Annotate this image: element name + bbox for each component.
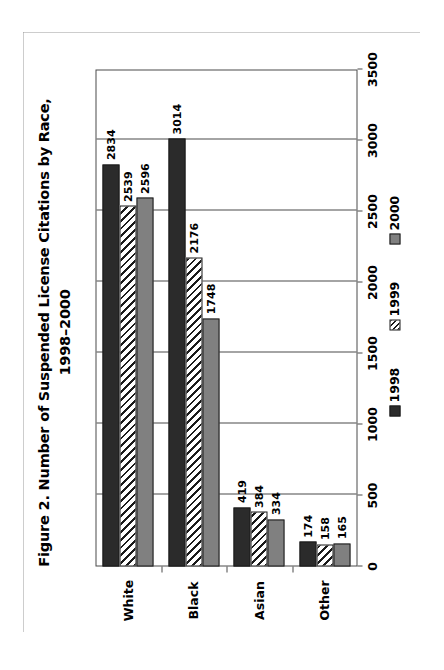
bar-group-row: 174 xyxy=(299,69,316,566)
chart-legend: 199819992000 xyxy=(385,69,407,566)
bar-white-1998[interactable] xyxy=(102,164,119,566)
bar-black-2000[interactable] xyxy=(202,318,219,566)
bar-group-row: 1748 xyxy=(202,69,219,566)
bar-group-row: 419 xyxy=(233,69,250,566)
value-axis-label: 2000 xyxy=(364,252,379,312)
legend-item-1999[interactable]: 1999 xyxy=(385,281,403,330)
chart-title: Figure 2. Number of Suspended License Ci… xyxy=(33,32,75,632)
rotated-figure-wrapper: Figure 2. Number of Suspended License Ci… xyxy=(23,32,420,632)
bar-black-1998[interactable] xyxy=(168,138,185,566)
bar-group-row: 2834 xyxy=(102,69,119,566)
bar-group-row: 2539 xyxy=(119,69,136,566)
chart-figure: Figure 2. Number of Suspended License Ci… xyxy=(23,32,420,632)
chart-title-line-2: 1998–2000 xyxy=(54,32,75,632)
value-axis-tick xyxy=(357,140,362,141)
data-label-white-1999: 2539 xyxy=(119,171,136,202)
data-label-asian-2000: 334 xyxy=(267,492,284,515)
value-axis-tick xyxy=(357,353,362,354)
bar-white-1999[interactable] xyxy=(119,205,136,566)
data-label-black-1998: 3014 xyxy=(168,103,185,134)
data-label-asian-1999: 384 xyxy=(250,485,267,508)
bar-asian-1998[interactable] xyxy=(233,507,250,566)
bar-asian-2000[interactable] xyxy=(267,519,284,566)
category-axis-tick xyxy=(292,566,293,572)
legend-item-2000[interactable]: 2000 xyxy=(385,195,403,244)
value-axis-tick xyxy=(357,424,362,425)
data-label-black-1999: 2176 xyxy=(185,222,202,253)
category-label-black: Black xyxy=(185,568,200,632)
bar-group-row: 334 xyxy=(267,69,284,566)
bar-asian-1999[interactable] xyxy=(250,511,267,566)
legend-label-1998: 1998 xyxy=(388,367,400,402)
category-label-other: Other xyxy=(316,568,331,632)
category-axis-tick xyxy=(226,566,227,572)
value-axis-tick xyxy=(357,495,362,496)
category-axis-tick xyxy=(161,566,162,572)
value-axis-tick xyxy=(357,211,362,212)
value-axis-label: 3500 xyxy=(364,39,379,99)
value-axis-label: 2500 xyxy=(364,181,379,241)
bar-white-2000[interactable] xyxy=(136,197,153,566)
bar-other-1998[interactable] xyxy=(299,541,316,566)
category-label-white: White xyxy=(120,568,135,632)
bar-group-row: 158 xyxy=(316,69,333,566)
bar-black-1999[interactable] xyxy=(185,257,202,566)
value-axis-label: 1000 xyxy=(364,394,379,454)
data-label-other-2000: 165 xyxy=(333,516,350,539)
legend-label-1999: 1999 xyxy=(388,281,400,316)
bar-group-row: 384 xyxy=(250,69,267,566)
legend-swatch-1998 xyxy=(389,405,400,416)
bar-group-row: 2596 xyxy=(136,69,153,566)
value-axis-label: 3000 xyxy=(364,110,379,170)
legend-swatch-1999 xyxy=(389,319,400,330)
value-axis-label: 0 xyxy=(364,536,379,596)
data-label-asian-1998: 419 xyxy=(233,480,250,503)
figure-page: Figure 2. Number of Suspended License Ci… xyxy=(0,0,444,670)
bar-group-row: 165 xyxy=(333,69,350,566)
chart-title-line-1: Figure 2. Number of Suspended License Ci… xyxy=(35,98,51,566)
bar-group-row: 2176 xyxy=(185,69,202,566)
bar-other-1999[interactable] xyxy=(316,544,333,566)
category-label-asian: Asian xyxy=(251,568,266,632)
data-label-other-1999: 158 xyxy=(316,517,333,540)
data-label-other-1998: 174 xyxy=(299,514,316,537)
legend-label-2000: 2000 xyxy=(388,195,400,230)
value-axis-tick xyxy=(357,282,362,283)
value-axis-label: 500 xyxy=(364,465,379,525)
bar-other-2000[interactable] xyxy=(333,543,350,566)
data-label-white-2000: 2596 xyxy=(136,163,153,194)
data-label-black-2000: 1748 xyxy=(202,283,219,314)
value-axis-label: 1500 xyxy=(364,323,379,383)
legend-swatch-2000 xyxy=(389,233,400,244)
data-label-white-1998: 2834 xyxy=(102,129,119,160)
value-axis-tick xyxy=(357,566,362,567)
bar-group-row: 3014 xyxy=(168,69,185,566)
value-axis-tick xyxy=(357,69,362,70)
legend-item-1998[interactable]: 1998 xyxy=(385,367,403,416)
